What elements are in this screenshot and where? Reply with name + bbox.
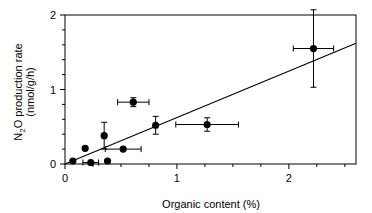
data-point <box>69 157 76 164</box>
data-point <box>104 157 111 164</box>
y-axis-title-suffix: O production rate <box>12 43 24 128</box>
x-tick-label: 0 <box>62 172 68 184</box>
data-point <box>120 146 127 153</box>
data-point <box>204 121 211 128</box>
data-point <box>101 132 108 139</box>
y-tick-label: 2 <box>50 9 56 21</box>
scatter-plot: 012 012 Organic content (%) N2O producti… <box>0 0 372 213</box>
data-point <box>310 45 317 52</box>
x-axis-title: Organic content (%) <box>162 198 260 210</box>
chart-figure: 012 012 Organic content (%) N2O producti… <box>0 0 372 213</box>
data-point <box>82 145 89 152</box>
y-axis-title-prefix: N <box>12 133 24 141</box>
data-point <box>130 99 137 106</box>
y-tick-label: 1 <box>50 84 56 96</box>
x-tick-label: 1 <box>174 172 180 184</box>
chart-background <box>0 0 372 213</box>
x-tick-label: 2 <box>286 172 292 184</box>
y-tick-label: 0 <box>50 158 56 170</box>
data-point <box>152 122 159 129</box>
y-axis-title-units: (nmol/g/h) <box>24 67 36 117</box>
data-point <box>87 159 94 166</box>
